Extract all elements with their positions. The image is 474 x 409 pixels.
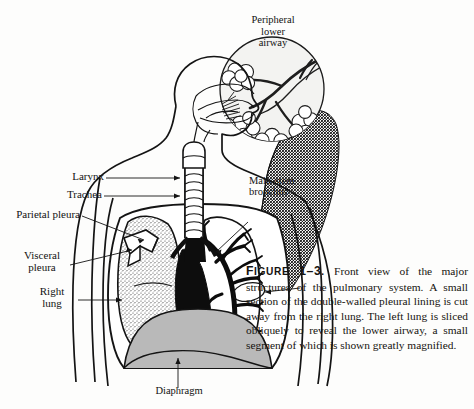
label-main-stem-line2: bronchus: [249, 186, 321, 197]
inset-title-line2: lower: [240, 26, 306, 38]
figure-caption: FIGURE 1–3. Front view of the major stru…: [246, 264, 468, 353]
label-diaphragm: Diaphragm: [148, 385, 210, 396]
figure-caption-text: Front view of the major structures of th…: [246, 265, 468, 351]
inset-title-line3: airway: [240, 37, 306, 49]
inset-title: Peripheral lower airway: [240, 14, 306, 49]
label-visceral-pleura: Visceral pleura: [16, 250, 68, 274]
label-trachea: Trachea: [42, 189, 102, 201]
label-larynx: Larynx: [46, 171, 104, 183]
inset-title-line1: Peripheral: [240, 14, 306, 26]
label-right-lung: Right lung: [28, 286, 76, 310]
figure-number: FIGURE 1–3.: [246, 266, 325, 277]
figure-1-3: Larynx Trachea Parietal pleura Visceral …: [0, 0, 474, 409]
larynx-structure: [183, 142, 205, 168]
label-main-stem-bronchus: Main-stem bronchus: [249, 175, 321, 198]
label-main-stem-line1: Main-stem: [249, 175, 321, 186]
label-right-lung-line2: lung: [28, 298, 76, 310]
label-visceral-pleura-line2: pleura: [16, 262, 68, 274]
label-parietal-pleura: Parietal pleura: [0, 209, 80, 221]
